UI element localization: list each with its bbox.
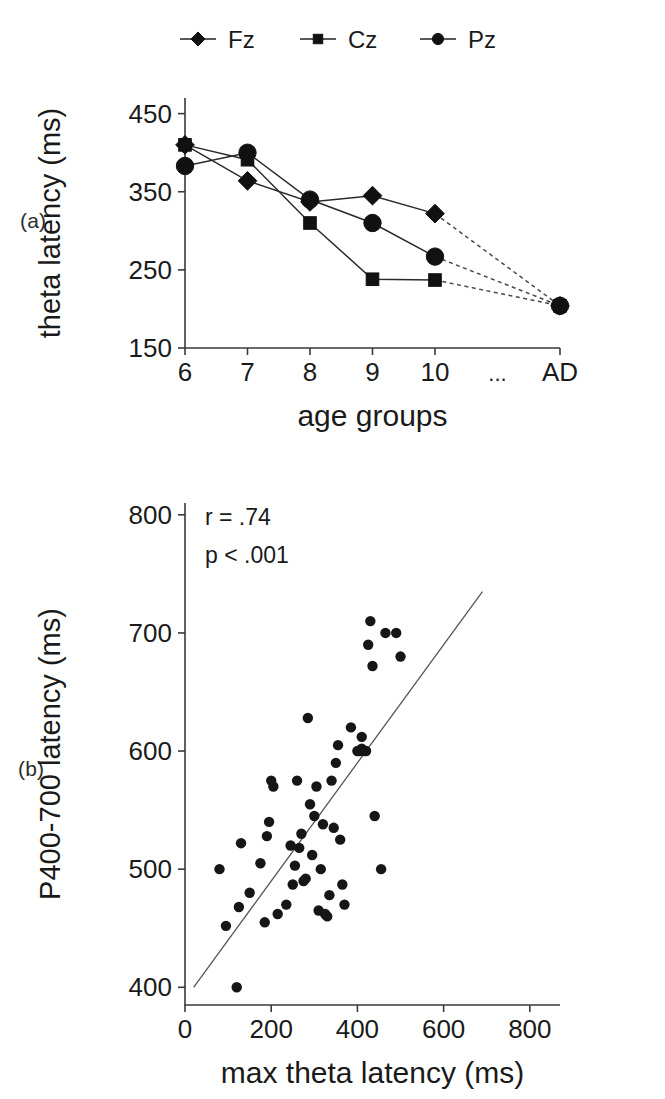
scatter-point: [255, 858, 265, 868]
panel-b-axes: [185, 503, 560, 1005]
x-tick-label-a-7: 7: [240, 357, 254, 387]
data-point-pz: [301, 191, 318, 208]
legend-marker-pz: [432, 33, 443, 44]
x-tick-label-a-AD: AD: [542, 357, 578, 387]
scatter-point: [322, 911, 332, 921]
legend-label-pz: Pz: [468, 26, 496, 53]
scatter-point: [361, 746, 371, 756]
scatter-point: [391, 628, 401, 638]
data-point-pz: [176, 157, 193, 174]
series-dashed-pz: [435, 257, 560, 306]
y-tick-label-a-150: 150: [129, 333, 172, 363]
x-tick-label-b-600: 600: [422, 1014, 465, 1044]
scatter-point: [262, 831, 272, 841]
scatter-point: [264, 817, 274, 827]
series-dashed-fz: [435, 214, 560, 306]
annotation-p-value: p < .001: [205, 542, 289, 568]
legend-marker-cz: [313, 34, 322, 43]
scatter-point: [357, 732, 367, 742]
y-tick-label-a-350: 350: [129, 177, 172, 207]
scatter-point: [244, 888, 254, 898]
scatter-point: [346, 722, 356, 732]
data-point-cz: [304, 217, 317, 230]
panel-a-chart: FzCzPz450350250150678910...ADage groupst…: [0, 0, 665, 460]
scatter-point: [367, 661, 377, 671]
scatter-point: [290, 860, 300, 870]
scatter-point: [365, 616, 375, 626]
scatter-point: [292, 775, 302, 785]
scatter-point: [288, 879, 298, 889]
scatter-point: [234, 902, 244, 912]
scatter-point: [309, 811, 319, 821]
x-tick-label-a-9: 9: [365, 357, 379, 387]
scatter-point: [300, 873, 310, 883]
scatter-point: [232, 982, 242, 992]
data-point-cz: [429, 274, 442, 287]
x-tick-label-b-0: 0: [178, 1014, 192, 1044]
scatter-point: [329, 823, 339, 833]
x-tick-label-a-dotsdotsdots: ...: [488, 361, 506, 386]
y-tick-label-a-450: 450: [129, 99, 172, 129]
data-point-pz: [426, 248, 443, 265]
scatter-point: [337, 879, 347, 889]
legend-label-cz: Cz: [348, 26, 377, 53]
scatter-point: [307, 850, 317, 860]
scatter-point: [380, 628, 390, 638]
scatter-point: [339, 899, 349, 909]
scatter-point: [369, 811, 379, 821]
scatter-point: [311, 781, 321, 791]
data-point-fz: [363, 186, 382, 205]
panel-b-ylabel: P400-700 latency (ms): [34, 608, 66, 900]
scatter-point: [318, 819, 328, 829]
scatter-point: [272, 909, 282, 919]
x-tick-label-a-10: 10: [421, 357, 450, 387]
series-dashed-cz: [435, 280, 560, 306]
scatter-point: [326, 775, 336, 785]
scatter-point: [214, 864, 224, 874]
panel-b-chart: 8007006005004000200400600800r = .74p < .…: [0, 459, 665, 1099]
scatter-point: [324, 890, 334, 900]
y-tick-label-b-500: 500: [129, 854, 172, 884]
data-point-pz: [551, 297, 568, 314]
x-tick-label-b-400: 400: [336, 1014, 379, 1044]
scatter-point: [305, 799, 315, 809]
data-point-cz: [366, 273, 379, 286]
legend-label-fz: Fz: [228, 26, 255, 53]
x-tick-label-a-6: 6: [178, 357, 192, 387]
y-tick-label-b-400: 400: [129, 972, 172, 1002]
scatter-point: [294, 843, 304, 853]
scatter-point: [296, 829, 306, 839]
scatter-point: [268, 781, 278, 791]
scatter-point: [331, 758, 341, 768]
data-point-fz: [426, 204, 445, 223]
data-point-pz: [364, 214, 381, 231]
scatter-point: [316, 864, 326, 874]
annotation-correlation: r = .74: [205, 504, 271, 530]
x-tick-label-b-200: 200: [250, 1014, 293, 1044]
data-point-pz: [239, 144, 256, 161]
scatter-point: [303, 713, 313, 723]
y-tick-label-b-800: 800: [129, 500, 172, 530]
x-tick-label-b-800: 800: [508, 1014, 551, 1044]
scatter-point: [395, 651, 405, 661]
scatter-point: [333, 740, 343, 750]
legend-marker-fz: [191, 32, 205, 46]
panel-a-xlabel: age groups: [297, 399, 447, 432]
scatter-point: [335, 834, 345, 844]
series-line-cz: [185, 145, 435, 280]
figure-root: (a) FzCzPz450350250150678910...ADage gro…: [0, 0, 665, 1099]
data-point-fz: [238, 171, 257, 190]
scatter-point: [260, 917, 270, 927]
y-tick-label-b-700: 700: [129, 618, 172, 648]
regression-line: [194, 592, 483, 988]
scatter-point: [281, 899, 291, 909]
y-tick-label-b-600: 600: [129, 736, 172, 766]
panel-a-ylabel: theta latency (ms): [34, 108, 66, 338]
x-tick-label-a-8: 8: [303, 357, 317, 387]
scatter-point: [363, 640, 373, 650]
scatter-point: [221, 921, 231, 931]
data-point-cz: [179, 139, 192, 152]
scatter-point: [376, 864, 386, 874]
scatter-point: [236, 838, 246, 848]
y-tick-label-a-250: 250: [129, 255, 172, 285]
